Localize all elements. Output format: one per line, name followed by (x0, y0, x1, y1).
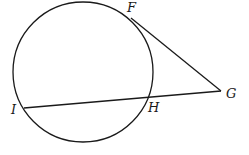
label-h: H (147, 100, 160, 115)
tangent-segment-fg (131, 18, 221, 91)
geometry-diagram: F G H I (0, 0, 249, 155)
circle (13, 2, 153, 142)
label-i: I (10, 102, 17, 117)
secant-segment-ig (24, 91, 221, 108)
label-g: G (226, 86, 236, 101)
label-f: F (126, 0, 137, 15)
